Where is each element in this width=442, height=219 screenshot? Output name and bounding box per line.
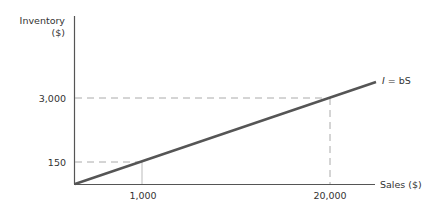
y-tick-150: 150: [48, 157, 66, 168]
x-tick-20000: 20,000: [313, 190, 346, 201]
series-annotation: I = bS: [382, 75, 411, 86]
x-tick-1000: 1,000: [129, 190, 156, 201]
chart: Inventory ($) 3,000 150 1,000 20,000 Sal…: [0, 0, 442, 219]
x-axis-label: Sales ($): [380, 179, 422, 190]
y-axis-label-line1: Inventory: [20, 15, 66, 26]
y-tick-3000: 3,000: [39, 93, 66, 104]
y-axis-label-line2: ($): [52, 27, 65, 38]
annotation-rest: = bS: [385, 75, 411, 86]
series-line: [75, 82, 376, 184]
